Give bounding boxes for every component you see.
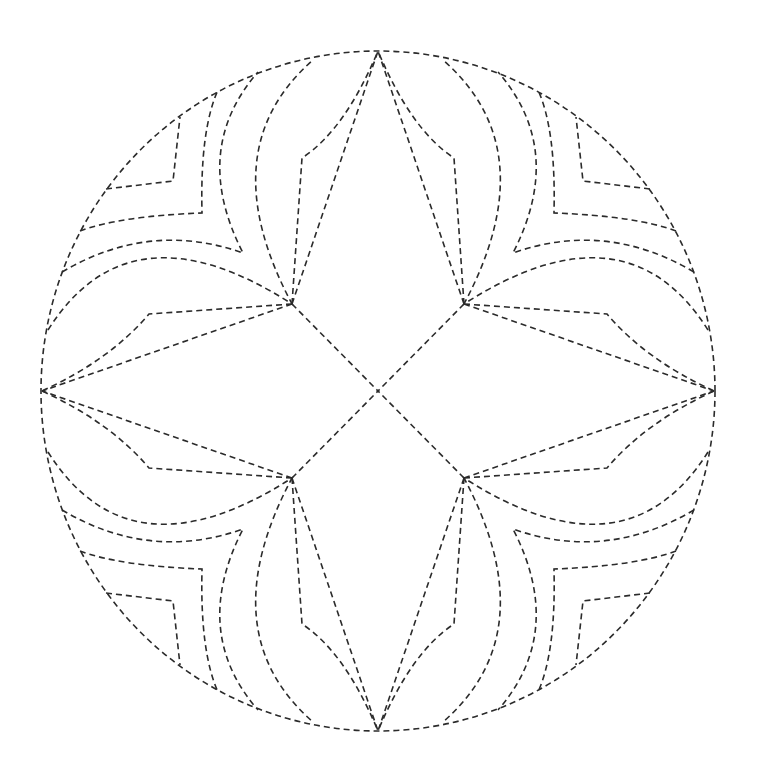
second-angular-chevron <box>538 90 676 231</box>
inner-angular-chevron <box>576 117 650 189</box>
star-ray-to-top <box>292 478 378 731</box>
quadrant-bottom-right <box>378 391 714 731</box>
diagonal-to-center <box>378 304 464 391</box>
fourth-curved-petal <box>48 452 313 722</box>
fourth-curved-petal <box>48 60 313 330</box>
star-ray-to-side <box>42 304 292 391</box>
third-curved-chevron <box>498 72 694 272</box>
inner-angular-chevron <box>576 593 650 665</box>
inner-angular-chevron <box>106 117 180 189</box>
star-ray-to-top <box>378 51 464 304</box>
third-curved-chevron <box>62 510 258 710</box>
inner-angular-chevron <box>106 593 180 665</box>
third-curved-chevron <box>498 510 694 710</box>
quilting-pattern-diagram <box>0 0 759 779</box>
fourth-curved-petal <box>443 60 708 330</box>
second-angular-chevron <box>80 551 218 692</box>
quadrant-top-right <box>378 51 714 391</box>
diagonal-to-center <box>378 391 464 478</box>
star-ray-to-top <box>378 478 464 731</box>
diagonal-to-center <box>292 391 378 478</box>
diagonal-to-center <box>292 304 378 391</box>
star-ray-to-side <box>464 304 714 391</box>
fourth-curved-petal <box>443 452 708 722</box>
third-curved-chevron <box>62 72 258 272</box>
star-ray-to-side <box>464 391 714 478</box>
star-ray-to-top <box>292 51 378 304</box>
star-ray-to-side <box>42 391 292 478</box>
quadrant-top-left <box>42 51 378 391</box>
quadrant-group <box>42 51 714 731</box>
second-angular-chevron <box>538 551 676 692</box>
second-angular-chevron <box>80 90 218 231</box>
quadrant-bottom-left <box>42 391 378 731</box>
